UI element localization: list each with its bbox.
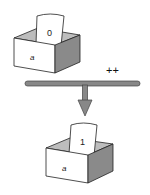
- variable-label-before: a: [30, 53, 35, 62]
- increment-operator: ++: [106, 64, 119, 76]
- value-label-before: 0: [47, 28, 52, 38]
- increment-diagram: 0 a ++ 1 a: [0, 0, 150, 195]
- value-label-after: 1: [80, 137, 85, 147]
- box-after: 1 a: [46, 123, 113, 183]
- transition-arrow: [25, 81, 140, 116]
- box-before: 0 a: [14, 14, 80, 73]
- variable-label-after: a: [62, 164, 67, 173]
- value-card-after: 1: [69, 123, 97, 156]
- value-card-before: 0: [36, 14, 64, 46]
